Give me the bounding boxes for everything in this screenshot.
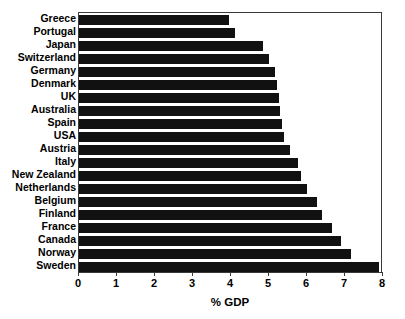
category-label-belgium: Belgium: [2, 195, 76, 206]
category-label-new-zealand: New Zealand: [2, 169, 76, 180]
category-label-austria: Austria: [2, 143, 76, 154]
bar-sweden: [79, 262, 379, 272]
category-label-portugal: Portugal: [2, 26, 76, 37]
bar-row: [79, 262, 381, 272]
x-tick: [230, 272, 231, 276]
bar-uk: [79, 93, 279, 103]
bar-row: [79, 158, 381, 168]
bar-row: [79, 132, 381, 142]
bar-row: [79, 67, 381, 77]
bar-row: [79, 184, 381, 194]
bar-germany: [79, 67, 275, 77]
category-label-uk: UK: [2, 91, 76, 102]
bar-australia: [79, 106, 280, 116]
x-tick: [78, 272, 79, 276]
x-tick: [344, 272, 345, 276]
bar-row: [79, 28, 381, 38]
category-label-spain: Spain: [2, 117, 76, 128]
bar-row: [79, 197, 381, 207]
x-tick-label: 1: [106, 277, 126, 289]
x-tick: [306, 272, 307, 276]
category-label-denmark: Denmark: [2, 78, 76, 89]
category-label-greece: Greece: [2, 13, 76, 24]
category-label-germany: Germany: [2, 65, 76, 76]
category-label-australia: Australia: [2, 104, 76, 115]
bar-row: [79, 119, 381, 129]
category-label-netherlands: Netherlands: [2, 182, 76, 193]
x-tick: [268, 272, 269, 276]
bar-finland: [79, 210, 322, 220]
x-tick-label: 6: [296, 277, 316, 289]
bar-row: [79, 249, 381, 259]
x-tick-label: 7: [334, 277, 354, 289]
bar-portugal: [79, 28, 235, 38]
category-label-finland: Finland: [2, 208, 76, 219]
bar-greece: [79, 15, 229, 25]
category-label-italy: Italy: [2, 156, 76, 167]
category-axis-labels: GreecePortugalJapanSwitzerlandGermanyDen…: [0, 12, 76, 272]
x-tick: [382, 272, 383, 276]
bar-italy: [79, 158, 298, 168]
category-label-sweden: Sweden: [2, 260, 76, 271]
category-label-switzerland: Switzerland: [2, 52, 76, 63]
bar-row: [79, 106, 381, 116]
x-tick-label: 0: [68, 277, 88, 289]
bar-row: [79, 54, 381, 64]
bar-row: [79, 93, 381, 103]
bar-row: [79, 171, 381, 181]
bar-canada: [79, 236, 341, 246]
x-tick: [192, 272, 193, 276]
x-tick-label: 8: [372, 277, 392, 289]
bar-row: [79, 223, 381, 233]
category-label-france: France: [2, 221, 76, 232]
bar-norway: [79, 249, 351, 259]
bar-austria: [79, 145, 290, 155]
bar-belgium: [79, 197, 317, 207]
bar-new-zealand: [79, 171, 301, 181]
category-label-norway: Norway: [2, 247, 76, 258]
bar-chart-figure: GreecePortugalJapanSwitzerlandGermanyDen…: [0, 0, 405, 319]
bar-row: [79, 236, 381, 246]
x-axis-title: % GDP: [78, 296, 382, 308]
x-axis: 012345678: [78, 272, 382, 273]
bar-denmark: [79, 80, 277, 90]
x-tick-label: 4: [220, 277, 240, 289]
bar-row: [79, 41, 381, 51]
category-label-usa: USA: [2, 130, 76, 141]
plot-area: [78, 12, 382, 272]
x-tick: [154, 272, 155, 276]
category-label-japan: Japan: [2, 39, 76, 50]
bar-row: [79, 15, 381, 25]
bar-row: [79, 210, 381, 220]
bar-row: [79, 145, 381, 155]
category-label-canada: Canada: [2, 234, 76, 245]
bar-netherlands: [79, 184, 307, 194]
x-tick-label: 5: [258, 277, 278, 289]
x-tick-label: 3: [182, 277, 202, 289]
x-tick: [116, 272, 117, 276]
x-tick-label: 2: [144, 277, 164, 289]
bar-row: [79, 80, 381, 90]
bar-japan: [79, 41, 263, 51]
bar-spain: [79, 119, 282, 129]
bar-switzerland: [79, 54, 269, 64]
bar-france: [79, 223, 332, 233]
bar-usa: [79, 132, 284, 142]
